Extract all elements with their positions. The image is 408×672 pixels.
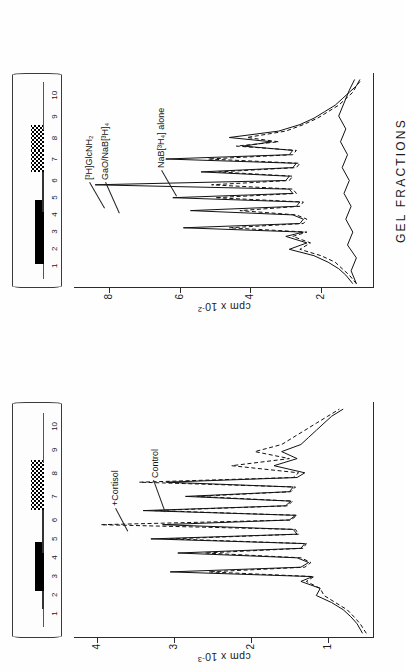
gel-band-number: 9 bbox=[51, 114, 59, 118]
gel-band-number: 3 bbox=[51, 229, 59, 233]
gel-band-number: 6 bbox=[51, 178, 59, 182]
gel-band-number: 6 bbox=[51, 518, 59, 522]
y-axis-label-text: cpm x 10 bbox=[205, 651, 251, 663]
gel-band bbox=[31, 460, 44, 486]
gel-band bbox=[43, 82, 44, 108]
glcnh2-label: [³H]GlcNH₂ bbox=[84, 136, 95, 181]
gel-band-number: 4 bbox=[51, 555, 59, 559]
trace-svg-lower bbox=[74, 402, 374, 638]
y-axis-tick bbox=[97, 638, 98, 643]
y-axis-tick bbox=[251, 638, 252, 643]
y-axis-label-exponent: -2 bbox=[197, 305, 204, 314]
y-axis-label-upper: cpm x 10-2 bbox=[197, 301, 250, 315]
gao-nab-label: GaO/NaB[³H]₄ bbox=[100, 123, 111, 180]
gel-strip-lower: 12345678910 bbox=[12, 402, 62, 638]
trace-svg-upper bbox=[74, 73, 374, 288]
gel-strip-upper: 12345678910 bbox=[12, 73, 62, 288]
gel-band-number: 10 bbox=[51, 422, 59, 431]
y-axis-tick-label: 2 bbox=[246, 644, 256, 650]
gel-band-number: 1 bbox=[51, 611, 59, 615]
gel-band-number: 8 bbox=[51, 136, 59, 140]
plot-upper: 2468 cpm x 10-2 GEL FRACTIONS [³H]GlcNH₂… bbox=[74, 73, 374, 288]
y-axis-tick bbox=[180, 288, 181, 293]
series-path bbox=[339, 80, 357, 284]
y-axis-label-text: cpm x 10 bbox=[205, 301, 251, 313]
panel-upper: 12345678910 2468 cpm x 10-2 GEL FRACTION… bbox=[0, 0, 404, 336]
gel-band-number: 4 bbox=[51, 212, 59, 216]
gel-band-container: 12345678910 bbox=[13, 403, 61, 637]
gel-band bbox=[31, 484, 44, 510]
panel-lower: 12345678910 1234 cpm x 10-3 +Cortisol Co… bbox=[0, 336, 404, 672]
y-axis-tick bbox=[328, 638, 329, 643]
series-path bbox=[143, 409, 362, 633]
y-axis-tick bbox=[321, 288, 322, 293]
gel-band-number: 7 bbox=[51, 157, 59, 161]
gel-band bbox=[42, 506, 44, 534]
gel-band-number: 9 bbox=[51, 448, 59, 452]
y-axis-tick-label: 2 bbox=[316, 294, 326, 300]
gel-band bbox=[43, 437, 44, 463]
gel-band-number: 7 bbox=[51, 494, 59, 498]
y-axis-tick-label: 6 bbox=[175, 294, 185, 300]
plot-lower: 1234 cpm x 10-3 +Cortisol Control bbox=[74, 402, 374, 638]
gel-band-container: 12345678910 bbox=[13, 74, 61, 287]
control-label: Control bbox=[150, 449, 161, 478]
y-axis-tick-label: 4 bbox=[245, 294, 255, 300]
y-axis-label-exponent: -3 bbox=[197, 655, 204, 664]
y-axis-tick bbox=[250, 288, 251, 293]
y-axis-tick bbox=[174, 638, 175, 643]
y-axis-tick-label: 4 bbox=[92, 644, 102, 650]
cortisol-label: +Cortisol bbox=[110, 470, 121, 506]
y-axis-tick-label: 8 bbox=[104, 294, 114, 300]
gel-band-number: 2 bbox=[51, 593, 59, 597]
x-axis-label: GEL FRACTIONS bbox=[394, 73, 408, 288]
gel-band bbox=[43, 413, 44, 439]
y-axis-tick bbox=[109, 288, 110, 293]
gel-band-number: 3 bbox=[51, 574, 59, 578]
gel-band-number: 8 bbox=[51, 471, 59, 475]
gel-band-number: 2 bbox=[51, 246, 59, 250]
y-axis-tick-label: 1 bbox=[323, 644, 333, 650]
nab-alone-label: NaB[³H₄] alone bbox=[156, 108, 167, 168]
gel-band-number: 10 bbox=[51, 91, 59, 100]
gel-band-number: 5 bbox=[51, 537, 59, 541]
series-path bbox=[95, 80, 360, 284]
gel-band-number: 5 bbox=[51, 195, 59, 199]
y-axis-label-lower: cpm x 10-3 bbox=[197, 651, 250, 665]
y-axis-tick-label: 3 bbox=[169, 644, 179, 650]
gel-band-number: 1 bbox=[51, 263, 59, 267]
